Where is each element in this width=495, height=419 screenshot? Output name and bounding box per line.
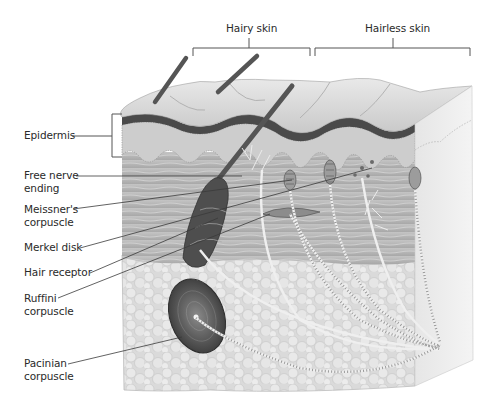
- dermis-layer: [122, 152, 415, 265]
- label-pacinian-corpuscle: Pacinian corpuscle: [24, 357, 74, 383]
- label-free-nerve-ending: Free nerve ending: [24, 169, 79, 195]
- label-hair-receptor: Hair receptor: [24, 266, 92, 279]
- label-hairy-skin: Hairy skin: [226, 22, 277, 35]
- label-meissners-corpuscle: Meissner's corpuscle: [24, 203, 78, 229]
- label-ruffini-corpuscle: Ruffini corpuscle: [24, 292, 74, 318]
- block-side-face: [415, 86, 473, 386]
- label-hairless-skin: Hairless skin: [365, 22, 430, 35]
- hairless-skin-bracket: [315, 38, 470, 56]
- epidermis-bracket: [72, 114, 122, 157]
- label-epidermis: Epidermis: [24, 129, 75, 142]
- hairy-skin-bracket: [193, 38, 310, 56]
- label-merkel-disk: Merkel disk: [24, 241, 82, 254]
